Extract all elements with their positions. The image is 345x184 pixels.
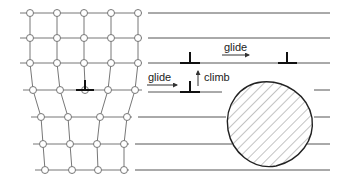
dislocation-symbol-after-glide: [278, 52, 297, 63]
dislocation-symbol-after-climb: [180, 52, 200, 63]
dislocation-diagram: glide glide climb: [0, 0, 345, 184]
glide-label-top: glide: [224, 41, 247, 53]
climb-label: climb: [204, 71, 230, 83]
glide-label-left: glide: [148, 71, 171, 83]
dislocation-symbol-before-climb: [180, 81, 200, 92]
dislocation-symbol-lattice: [76, 80, 94, 90]
precipitate-particle: [227, 82, 312, 167]
